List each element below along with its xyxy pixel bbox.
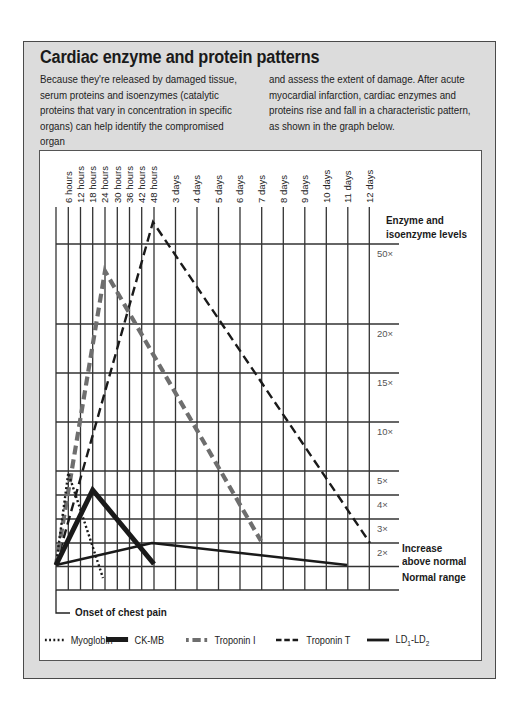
legend-label-ck-mb: CK-MB: [135, 635, 165, 646]
thick-line-swatch-icon: [106, 636, 130, 644]
svg-text:3 days: 3 days: [170, 175, 181, 203]
increase-above-normal-label: Increase above normal: [402, 542, 466, 568]
svg-text:48 hours: 48 hours: [148, 166, 159, 203]
ld-dash-text: -LD: [411, 634, 426, 645]
y-axis-labels: 50× 20× 15× 10× 5× 4× 3× 2×: [377, 248, 393, 558]
gray-dashed-swatch-icon: [186, 636, 210, 644]
svg-text:11 days: 11 days: [342, 170, 353, 203]
svg-text:8 days: 8 days: [278, 175, 289, 203]
onset-of-chest-pain-label: Onset of chest pain: [75, 606, 167, 618]
svg-text:5×: 5×: [377, 475, 388, 486]
y-title-line-1: Enzyme and: [386, 213, 444, 227]
svg-text:18 hours: 18 hours: [87, 166, 98, 203]
svg-text:6 hours: 6 hours: [63, 171, 74, 203]
legend-item-ld1-ld2: LD1-LD2: [367, 630, 429, 650]
svg-text:9 days: 9 days: [299, 175, 310, 203]
dashed-line-swatch-icon: [276, 637, 302, 643]
svg-text:4×: 4×: [377, 499, 388, 510]
svg-text:42 hours: 42 hours: [136, 166, 147, 203]
line-chart: 6 hours 12 hours 18 hours 24 hours 30 ho…: [0, 0, 522, 701]
solid-line-swatch-icon: [367, 637, 391, 643]
legend-item-troponin-t: Troponin T: [276, 630, 350, 650]
svg-text:6 days: 6 days: [234, 175, 245, 203]
svg-text:20×: 20×: [377, 328, 393, 339]
legend-label-ld1-ld2: LD1-LD2: [396, 634, 430, 647]
svg-text:15×: 15×: [377, 377, 393, 388]
x-axis-labels: 6 hours 12 hours 18 hours 24 hours 30 ho…: [63, 166, 375, 203]
svg-text:10×: 10×: [377, 426, 393, 437]
legend-label-troponin-t: Troponin T: [306, 635, 350, 646]
svg-text:2×: 2×: [377, 547, 388, 558]
legend-item-ck-mb: CK-MB: [106, 630, 164, 650]
increase-line-1: Increase: [402, 542, 466, 555]
dotted-line-swatch-icon: [44, 637, 66, 643]
svg-text:4 days: 4 days: [191, 175, 202, 203]
svg-text:24 hours: 24 hours: [99, 166, 110, 203]
ld-text: LD: [396, 634, 408, 645]
y-title-line-2: isoenzyme levels: [386, 227, 467, 241]
svg-text:12 days: 12 days: [364, 169, 375, 203]
svg-text:12 hours: 12 hours: [75, 166, 86, 203]
series-troponin-i: [56, 271, 261, 565]
svg-text:36 hours: 36 hours: [124, 166, 135, 203]
ld-subscript-2: 2: [426, 640, 430, 647]
svg-text:3×: 3×: [377, 523, 388, 534]
normal-range-label: Normal range: [402, 571, 466, 583]
svg-text:30 hours: 30 hours: [112, 166, 123, 203]
onset-bracket: [56, 590, 70, 613]
legend-label-troponin-i: Troponin I: [215, 635, 256, 646]
series-ld1-ld2: [56, 543, 347, 565]
legend: Myoglobin CK-MB Troponin I Troponin T LD…: [44, 630, 484, 650]
increase-line-2: above normal: [402, 555, 466, 568]
svg-text:5 days: 5 days: [213, 175, 224, 203]
svg-text:7 days: 7 days: [256, 175, 267, 203]
legend-item-myoglobin: Myoglobin: [44, 630, 113, 650]
legend-item-troponin-i: Troponin I: [186, 630, 256, 650]
svg-text:50×: 50×: [377, 248, 393, 259]
svg-text:10 days: 10 days: [321, 169, 332, 203]
